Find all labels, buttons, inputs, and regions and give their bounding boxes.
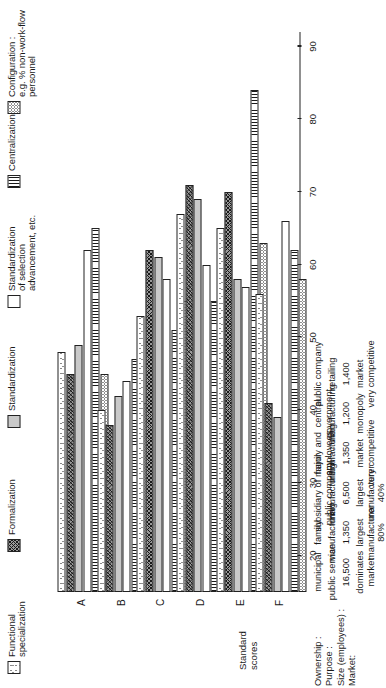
bar-C-cross xyxy=(145,250,153,592)
bar-E-speck xyxy=(216,228,224,592)
legend-label-functional_specialization: Functional specialization xyxy=(6,601,26,657)
row-label-0: Ownership : xyxy=(312,594,323,686)
bar-F-speck xyxy=(255,294,263,592)
legend-item-standardization: Standardization xyxy=(6,346,20,428)
plot-area: ABCDEF9080706050403020 xyxy=(62,32,300,592)
legend-swatch-configuration xyxy=(7,101,20,114)
profile-F-purpose: retailing xyxy=(326,358,337,391)
profile-F-market: market very competitive xyxy=(354,340,375,407)
bar-F-dots xyxy=(298,279,306,592)
profile-C-size: 6,500 xyxy=(340,481,351,504)
row-label-1: Purpose : xyxy=(323,594,334,686)
bar-A-speck xyxy=(57,352,65,592)
y-tick-80 xyxy=(297,118,301,119)
legend-label-configuration: Configuration : e.g. % non-work-flow per… xyxy=(6,10,37,97)
bar-B-speck xyxy=(97,410,105,592)
bar-group-F xyxy=(255,32,307,592)
profile-E-purpose: manufacturing xyxy=(326,384,337,443)
bar-C-speck xyxy=(136,316,144,592)
bar-F-cross xyxy=(264,403,272,592)
legend-item-functional_specialization: Functional specialization xyxy=(6,601,26,674)
bar-E-white xyxy=(241,287,249,592)
category-label-D: D xyxy=(194,599,205,606)
profile-cell-table: municipalpublic service16,500dominates m… xyxy=(312,32,372,592)
profile-row-labels: Ownership :Purpose :Size (employees) :Ma… xyxy=(312,594,358,686)
row-label-3: Market: xyxy=(346,594,357,686)
legend-swatch-formalization xyxy=(7,539,20,552)
bar-B-white xyxy=(122,381,130,592)
bar-A-cross xyxy=(66,374,74,592)
legend-swatch-standardization_selection xyxy=(7,295,20,308)
profile-A-ownership: municipal xyxy=(312,553,323,592)
bar-F-white xyxy=(281,221,289,592)
profile-A-size: 16,500 xyxy=(340,558,351,586)
bar-C-white xyxy=(162,279,170,592)
bar-F-grey xyxy=(273,417,281,592)
category-label-B: B xyxy=(115,599,126,606)
y-axis-caption: Standard scores xyxy=(236,596,258,670)
profile-D-size: 1,350 xyxy=(340,442,351,465)
legend-item-formalization: Formalization xyxy=(6,479,20,552)
legend-swatch-centralization xyxy=(7,175,20,188)
legend-label-standardization: Standardization xyxy=(6,346,16,411)
y-tick-50 xyxy=(297,336,301,337)
bar-B-grey xyxy=(114,396,122,592)
y-tick-70 xyxy=(297,191,301,192)
profile-E-size: 1,200 xyxy=(340,402,351,425)
legend-item-standardization_selection: Standardization of selection advancement… xyxy=(6,215,37,308)
legend-swatch-standardization xyxy=(7,415,20,428)
bar-F-vert xyxy=(290,250,298,592)
y-tick-60 xyxy=(297,264,301,265)
y-tick-40 xyxy=(297,409,301,410)
legend-item-centralization: Centralization xyxy=(6,114,20,188)
y-tick-30 xyxy=(297,482,301,483)
y-tick-90 xyxy=(297,45,301,46)
profile-F-ownership: public company xyxy=(312,342,323,407)
bar-D-speck xyxy=(176,214,184,592)
y-tick-20 xyxy=(297,555,301,556)
profile-B-size: 1,350 xyxy=(340,521,351,544)
category-label-C: C xyxy=(154,599,165,606)
bar-A-grey xyxy=(74,345,82,592)
legend-swatch-functional_specialization xyxy=(7,661,20,674)
bar-C-grey xyxy=(154,257,162,592)
legend-label-standardization_selection: Standardization of selection advancement… xyxy=(6,215,37,291)
bar-A-white xyxy=(83,250,91,592)
bar-E-grey xyxy=(233,279,241,592)
bar-B-cross xyxy=(105,425,113,592)
bar-D-cross xyxy=(185,185,193,592)
row-label-2: Size (employees) : xyxy=(335,594,346,686)
profile-F-size: 1,400 xyxy=(340,362,351,385)
legend-item-configuration: Configuration : e.g. % non-work-flow per… xyxy=(6,10,37,114)
bar-D-grey xyxy=(193,199,201,592)
legend-label-formalization: Formalization xyxy=(6,479,16,535)
bar-E-cross xyxy=(224,192,232,592)
bar-D-white xyxy=(202,265,210,592)
category-label-F: F xyxy=(273,600,284,606)
category-label-A: A xyxy=(75,599,86,606)
legend-label-centralization: Centralization xyxy=(6,114,16,171)
chart-legend: Functional specializationFormalizationSt… xyxy=(6,8,50,680)
